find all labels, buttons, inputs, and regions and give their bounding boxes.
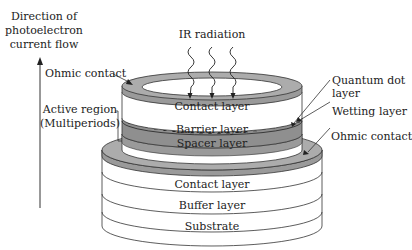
ir-radiation-label: IR radiation [179,28,246,41]
direction-label-line3: current flow [10,38,79,51]
bottom-contact-layer-label: Contact layer [174,178,250,191]
active-region-label-line1: Active region [42,103,117,116]
direction-label-line1: Direction of [11,10,78,23]
current-direction-arrow [37,57,43,208]
upper-mesa [122,72,302,164]
top-contact-layer-label: Contact layer [174,100,250,113]
wetting-layer-label: Wetting layer [332,105,408,118]
quantum-dot-label-line1: Quantum dot [332,74,406,87]
barrier-layer-label: Barrier layer [176,123,249,136]
ohmic-contact-bottom-label: Ohmic contact [331,130,412,143]
qdip-device-diagram: Direction of photoelectron current flow … [0,0,412,250]
substrate-label: Substrate [185,220,239,233]
direction-label-line2: photoelectron [5,24,83,37]
spacer-layer-label: Spacer layer [177,137,248,150]
buffer-layer-label: Buffer layer [179,199,246,212]
ohmic-contact-top-label: Ohmic contact [45,67,127,80]
quantum-dot-label-line2: layer [332,87,361,100]
active-region-label-line2: (Multiperiods) [40,117,120,130]
